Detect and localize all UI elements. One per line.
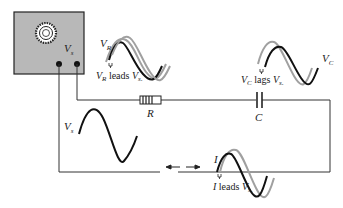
arrow-right-icon [195,165,200,169]
resistor-label: R [146,107,154,119]
vr-caption: VR leads Vs. [96,70,143,83]
dial-icon [36,23,56,43]
current-caption: I leads Vs. [212,181,253,194]
resistor-voltage-waveform: VR VR leads Vs. [96,37,170,84]
resistor: R [140,96,161,119]
capacitor-voltage-waveform: VC VC lags Vs. [241,42,334,87]
current-direction-arrows [166,165,200,169]
vc-label: VC [322,52,334,67]
capacitor-label: C [255,111,263,123]
capacitor: C [255,92,263,123]
arrow-left-icon [166,165,171,169]
source-wave-label: Vs [64,120,74,135]
vc-caption: VC lags Vs. [241,74,284,87]
current-label: I [213,153,219,165]
signal-generator: Vs [14,12,84,74]
rc-circuit-diagram: Vs R C Vs [0,0,343,208]
current-waveform: I I leads Vs. [212,150,274,197]
source-waveform: Vs [64,109,137,162]
vr-label: VR [100,37,112,52]
